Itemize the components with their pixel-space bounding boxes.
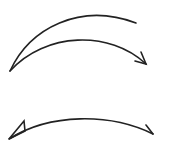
double-arrow-arc — [9, 119, 153, 139]
caption-cut-off — [2, 158, 168, 165]
middle-arc-arrow — [10, 40, 146, 71]
arrow-diagram — [0, 0, 170, 165]
upper-arc — [10, 16, 136, 71]
arrowhead-left-icon — [9, 121, 25, 139]
